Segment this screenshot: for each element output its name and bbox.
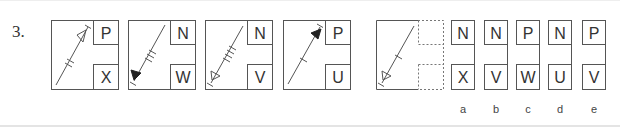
outline-arrowhead-icon: [77, 30, 86, 42]
bottom-divider: [0, 125, 620, 127]
option-c-label[interactable]: c: [516, 103, 540, 115]
option-c-top-letter: P: [523, 25, 534, 42]
filled-arrowhead-icon: [311, 29, 321, 39]
fig4-top-letter: P: [333, 25, 344, 42]
option-a-top-letter: N: [457, 25, 469, 42]
fig3-top-letter: N: [254, 25, 266, 42]
fig2-bottom-letter: W: [175, 69, 191, 86]
option-d-label[interactable]: d: [548, 103, 572, 115]
option-d-bottom-letter: U: [554, 69, 566, 86]
option-c-bottom-letter: W: [520, 69, 536, 86]
fig3-bottom-letter: V: [255, 69, 266, 86]
fig1-top-letter: P: [101, 25, 112, 42]
option-b-top-letter: N: [490, 25, 502, 42]
option-a-bottom-letter: X: [458, 69, 469, 86]
option-e-top-letter: P: [589, 25, 600, 42]
option-b-label[interactable]: b: [484, 103, 508, 115]
option-e-label[interactable]: e: [582, 103, 606, 115]
option-b-bottom-letter: V: [491, 69, 502, 86]
option-d-top-letter: N: [554, 25, 566, 42]
fig2-top-letter: N: [177, 25, 189, 42]
option-a-label[interactable]: a: [451, 103, 475, 115]
option-e-bottom-letter: V: [589, 69, 600, 86]
fig1-bottom-letter: X: [101, 69, 112, 86]
fig4-bottom-letter: U: [332, 69, 344, 86]
sequence-figure-5-missing: [377, 21, 444, 90]
